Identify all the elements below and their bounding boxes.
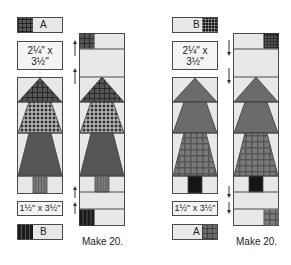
left-assembled-block: [79, 33, 125, 226]
black-check-swatch: [202, 18, 217, 32]
left-bottom-spacer-label: 1½" x 3½": [17, 201, 63, 216]
spacer-size-line1: 2¼" x: [27, 45, 52, 56]
right-assembled-block: [233, 33, 279, 226]
right-bottom-spacer-label: 1½" x 3½": [172, 201, 218, 216]
arrow-down-icon: [226, 202, 232, 214]
spacer-size-line1: 2¼" x: [182, 45, 207, 56]
dark-plaid-swatch: [18, 18, 33, 32]
strip-label: A: [193, 226, 200, 237]
spacer-size-line2: 3½": [27, 56, 52, 67]
strip-label: B: [40, 226, 47, 237]
right-bottom-strip-a: A: [172, 224, 218, 240]
arrow-up-icon: [72, 202, 78, 214]
right-make-caption: Make 20.: [236, 236, 277, 247]
dark-plaid-swatch: [202, 225, 217, 239]
right-tree-unit: [172, 77, 218, 194]
arrow-down-icon: [226, 68, 232, 84]
spacer-size-line2: 3½": [182, 56, 207, 67]
strip-label: B: [193, 19, 200, 30]
left-bottom-strip-b: B: [17, 224, 63, 240]
arrow-down-icon: [226, 40, 232, 56]
arrow-up-icon: [72, 186, 78, 198]
spacer-size: 1½" x 3½": [175, 203, 216, 214]
right-top-strip-b: B: [172, 17, 218, 33]
right-top-spacer-label: 2¼" x 3½": [172, 41, 218, 70]
black-stripe-swatch: [18, 225, 33, 239]
left-top-strip-a: A: [17, 17, 63, 33]
left-make-caption: Make 20.: [82, 236, 123, 247]
arrow-up-icon: [72, 68, 78, 84]
spacer-size: 1½" x 3½": [20, 203, 61, 214]
strip-label: A: [40, 19, 47, 30]
arrow-down-icon: [226, 186, 232, 198]
left-tree-unit: [17, 77, 63, 194]
arrow-up-icon: [72, 40, 78, 56]
left-top-spacer-label: 2¼" x 3½": [17, 41, 63, 70]
